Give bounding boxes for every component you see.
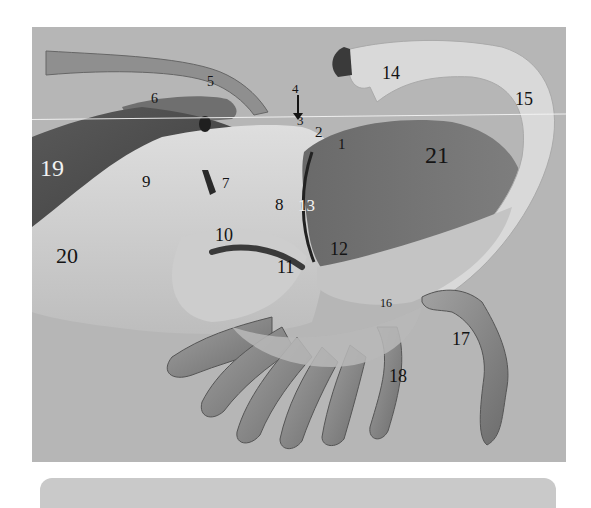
specimen-illustration (32, 27, 566, 462)
caption-bar (40, 478, 556, 508)
down-arrow-icon (297, 95, 299, 115)
structure-label-12: 12 (330, 240, 348, 258)
structure-label-6: 6 (151, 92, 158, 106)
structure-label-20: 20 (56, 245, 78, 267)
structure-label-2: 2 (315, 125, 323, 140)
structure-label-11: 11 (277, 258, 294, 276)
structure-label-1: 1 (338, 137, 346, 152)
structure-label-21: 21 (425, 143, 449, 167)
structure-label-4: 4 (292, 82, 299, 95)
structure-label-8: 8 (275, 196, 284, 213)
structure-label-14: 14 (382, 64, 400, 82)
structure-label-16: 16 (380, 297, 392, 309)
structure-label-13: 13 (298, 197, 315, 214)
structure-label-5: 5 (207, 75, 214, 89)
structure-label-17: 17 (452, 330, 470, 348)
structure-label-19: 19 (40, 156, 64, 180)
structure-label-15: 15 (515, 90, 533, 108)
structure-label-10: 10 (215, 226, 233, 244)
specimen-photo (32, 27, 566, 462)
structure-label-9: 9 (142, 173, 151, 190)
structure-label-18: 18 (389, 367, 407, 385)
structure-label-7: 7 (222, 176, 230, 191)
